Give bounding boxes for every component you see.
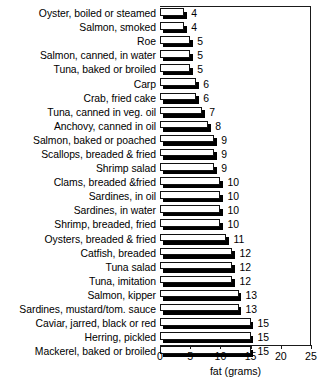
bar-category-label: Roe — [137, 37, 158, 47]
bar-row: Catfish, breaded12 — [0, 247, 318, 261]
bar-row: Shrimp, breaded, fried10 — [0, 218, 318, 232]
bar — [160, 78, 196, 90]
fat-content-bar-chart: Oyster, boiled or steamed4Salmon, smoked… — [0, 0, 318, 385]
bar — [160, 262, 232, 274]
bar-value-label: 11 — [233, 234, 244, 244]
bar-face — [160, 248, 232, 256]
bar — [160, 50, 190, 62]
bar — [160, 276, 232, 288]
bar-row: Clams, breaded &fried10 — [0, 176, 318, 190]
bar — [160, 318, 251, 330]
bar-row: Carp6 — [0, 77, 318, 91]
bar-category-label: Clams, breaded &fried — [54, 178, 158, 188]
bar — [160, 121, 208, 133]
bar — [160, 219, 220, 231]
x-axis-tick — [160, 345, 161, 349]
bar — [160, 22, 184, 34]
bar-row: Sardines, in water10 — [0, 204, 318, 218]
bar-value-label: 9 — [221, 136, 227, 146]
bar — [160, 107, 202, 119]
x-axis-tick — [311, 345, 312, 349]
x-axis-tick — [190, 345, 191, 349]
bar-row: Shrimp salad9 — [0, 162, 318, 176]
bar-value-label: 8 — [215, 122, 221, 132]
bar — [160, 248, 232, 260]
bar — [160, 234, 226, 246]
bar — [160, 290, 239, 302]
bar-value-label: 10 — [227, 178, 239, 188]
x-axis-tick-label: 10 — [214, 351, 226, 362]
bar-value-label: 5 — [197, 37, 203, 47]
x-axis-tick-label: 15 — [245, 351, 257, 362]
bar-row: Sardines, mustard/tom. sauce13 — [0, 303, 318, 317]
bar-face — [160, 8, 184, 16]
bar-value-label: 10 — [227, 220, 239, 230]
bar-row: Tuna salad12 — [0, 261, 318, 275]
bar-face — [160, 346, 251, 354]
bar-category-label: Catfish, breaded — [81, 248, 158, 258]
bar — [160, 163, 214, 175]
bar — [160, 205, 220, 217]
bar-row: Salmon, smoked4 — [0, 21, 318, 35]
bar-row: Salmon, kipper13 — [0, 289, 318, 303]
bar-face — [160, 177, 220, 185]
bar-value-label: 12 — [239, 277, 251, 287]
bar-category-label: Tuna, imitation — [89, 277, 158, 287]
bar-row: Salmon, baked or poached9 — [0, 134, 318, 148]
bar-value-label: 6 — [203, 79, 209, 89]
bar-value-label: 10 — [227, 206, 239, 216]
bar — [160, 93, 196, 105]
bar-category-label: Tuna, baked or broiled — [54, 65, 159, 75]
bar-category-label: Caviar, jarred, black or red — [36, 319, 158, 329]
bar-category-label: Sardines, mustard/tom. sauce — [19, 305, 158, 315]
bar-face — [160, 36, 190, 44]
bar-face — [160, 93, 196, 101]
bar-value-label: 5 — [197, 51, 203, 61]
bar-face — [160, 135, 214, 143]
bar-value-label: 15 — [258, 333, 270, 343]
bar-row: Tuna, baked or broiled5 — [0, 63, 318, 77]
bar-face — [160, 50, 190, 58]
bar-category-label: Salmon, canned, in water — [40, 51, 158, 61]
bar-category-label: Oysters, breaded & fried — [45, 234, 158, 244]
bar-value-label: 6 — [203, 93, 209, 103]
bar-value-label: 9 — [221, 164, 227, 174]
bar-face — [160, 78, 196, 86]
bar-category-label: Tuna, canned in veg. oil — [47, 108, 158, 118]
bar-value-label: 13 — [246, 305, 258, 315]
bar-row: Sardines, in oil10 — [0, 190, 318, 204]
bar-category-label: Crab, fried cake — [83, 93, 158, 103]
bar-row: Roe5 — [0, 35, 318, 49]
bar-category-label: Oyster, boiled or steamed — [39, 9, 158, 19]
x-axis-tick-label: 0 — [157, 351, 163, 362]
bar-face — [160, 107, 202, 115]
bar-row: Crab, fried cake6 — [0, 92, 318, 106]
bar-face — [160, 149, 214, 157]
bar-face — [160, 304, 239, 312]
bar — [160, 135, 214, 147]
x-axis-tick — [281, 345, 282, 349]
bar-value-label: 7 — [209, 108, 215, 118]
bar-category-label: Anchovy, canned in oil — [54, 122, 158, 132]
bar-face — [160, 262, 232, 270]
bar — [160, 149, 214, 161]
bar-value-label: 15 — [258, 347, 270, 357]
bar-category-label: Salmon, smoked — [79, 23, 158, 33]
x-axis-tick-label: 25 — [305, 351, 317, 362]
bar-face — [160, 163, 214, 171]
bar-row: Oyster, boiled or steamed4 — [0, 7, 318, 21]
x-axis-tick — [220, 345, 221, 349]
bar-value-label: 12 — [239, 263, 251, 273]
bar-category-label: Salmon, baked or poached — [33, 136, 158, 146]
bar-value-label: 4 — [191, 9, 197, 19]
bar — [160, 36, 190, 48]
bar-face — [160, 219, 220, 227]
bar-category-label: Shrimp salad — [96, 164, 158, 174]
bar-face — [160, 234, 226, 242]
bar — [160, 332, 251, 344]
x-axis-tick — [251, 345, 252, 349]
bar — [160, 8, 184, 20]
bar-face — [160, 290, 239, 298]
bar-row: Anchovy, canned in oil8 — [0, 120, 318, 134]
bar-rows-container: Oyster, boiled or steamed4Salmon, smoked… — [0, 7, 318, 359]
